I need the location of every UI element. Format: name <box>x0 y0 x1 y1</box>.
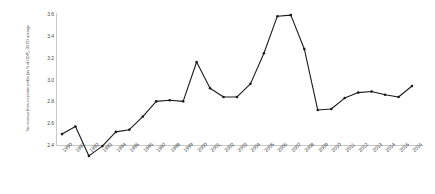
data-point <box>222 96 225 99</box>
y-axis-label: Tax revenue from corporate profits (as %… <box>26 25 30 132</box>
y-axis-tick: 3.6 <box>38 11 54 17</box>
data-point <box>195 61 198 64</box>
y-axis-tick-labels: 3.63.43.23.02.82.62.4 <box>38 0 54 194</box>
data-point <box>155 100 158 103</box>
data-point <box>209 87 212 90</box>
data-point <box>249 83 252 86</box>
data-point <box>236 96 239 99</box>
data-point <box>370 90 373 93</box>
data-point <box>168 99 171 102</box>
y-axis-tick: 2.8 <box>38 98 54 104</box>
data-point <box>115 131 118 134</box>
data-point <box>397 96 400 99</box>
data-point <box>88 155 91 158</box>
y-axis-tick: 2.4 <box>38 142 54 148</box>
data-point <box>74 125 77 128</box>
chart-container: Tax revenue from corporate profits (as %… <box>0 0 435 194</box>
plot-area <box>56 14 422 145</box>
data-point <box>61 133 64 136</box>
y-axis-tick: 3.2 <box>38 55 54 61</box>
y-axis-label-wrap: Tax revenue from corporate profits (as %… <box>18 8 38 148</box>
y-axis-tick: 2.6 <box>38 120 54 126</box>
data-point <box>357 91 360 94</box>
data-point <box>316 109 319 112</box>
data-point <box>343 97 346 100</box>
y-axis-tick: 3.0 <box>38 77 54 83</box>
data-point <box>128 128 131 131</box>
line-series <box>56 14 422 145</box>
data-point <box>384 93 387 96</box>
data-point <box>290 14 293 17</box>
data-point <box>330 108 333 111</box>
data-point <box>141 115 144 118</box>
series-line <box>62 15 412 156</box>
data-point <box>182 100 185 103</box>
data-point <box>276 15 279 18</box>
data-point <box>263 52 266 55</box>
data-point <box>411 85 414 88</box>
data-point <box>303 48 306 51</box>
y-axis-tick: 3.4 <box>38 33 54 39</box>
